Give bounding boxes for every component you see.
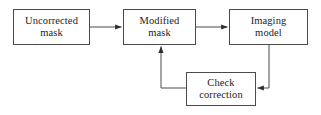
node-modified-mask-label: Modified mask: [140, 15, 180, 40]
node-modified-mask: Modified mask: [123, 9, 196, 45]
edge-check-to-modified: [161, 47, 186, 89]
node-imaging-model: Imaging model: [229, 9, 308, 45]
node-uncorrected-mask-label: Uncorrected mask: [25, 15, 78, 40]
flow-diagram: Uncorrected mask Modified mask Imaging m…: [0, 0, 321, 115]
node-imaging-model-label: Imaging model: [251, 15, 287, 40]
edge-imaging-to-check: [258, 45, 270, 88]
node-check-correction-label: Check correction: [199, 77, 243, 102]
node-check-correction: Check correction: [186, 72, 256, 106]
node-uncorrected-mask: Uncorrected mask: [13, 9, 90, 45]
